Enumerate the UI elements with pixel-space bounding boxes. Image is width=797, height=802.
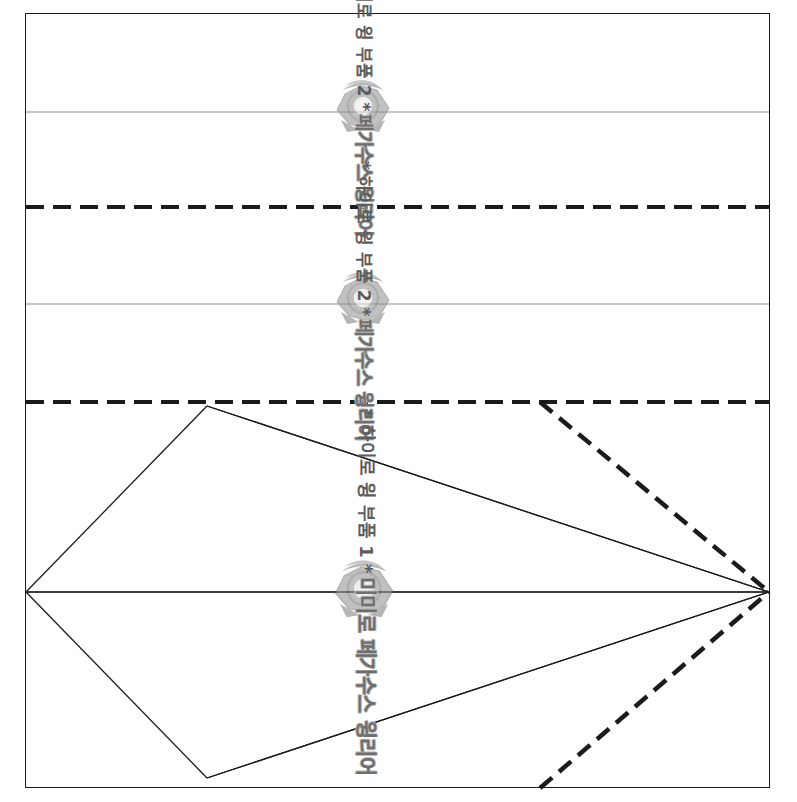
part-subtitle: * 하이로 윙 부품 2 *	[354, 0, 379, 111]
part-label-middle: 페가수스 윙리어 * 하이로 윙 부품 2 *	[256, 251, 476, 351]
part-title: 미미로 페가수스 윙리어	[353, 577, 383, 776]
papercraft-template-page: 페가수스 윙리어 * 하이로 윙 부품 2 * 페가수스 윙리어 * 하이로 윙…	[0, 0, 797, 802]
part-subtitle: * 하이로 윙 부품 1 *	[355, 409, 381, 574]
part-label-top: 페가수스 윙리어 * 하이로 윙 부품 2 *	[256, 46, 476, 146]
part-label-bottom: 미미로 페가수스 윙리어 * 하이로 윙 부품 1 *	[228, 472, 508, 712]
part-subtitle: * 하이로 윙 부품 2 *	[354, 161, 379, 316]
